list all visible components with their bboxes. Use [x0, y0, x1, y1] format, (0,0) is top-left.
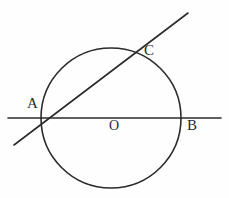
- point-label-o: O: [109, 119, 119, 133]
- geometry-figure: A C O B: [0, 0, 229, 198]
- point-label-c: C: [144, 43, 154, 58]
- point-label-b: B: [187, 118, 197, 133]
- point-label-a: A: [27, 96, 38, 111]
- secant-line-AC: [14, 13, 188, 145]
